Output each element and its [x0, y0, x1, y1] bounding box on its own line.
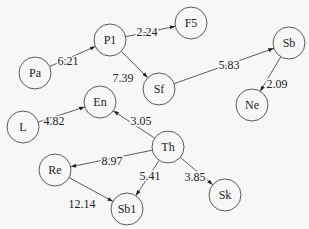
node-p1: P1 — [94, 24, 126, 56]
node-f5: F5 — [175, 7, 207, 39]
node-label: F5 — [185, 16, 198, 30]
node-label: En — [93, 95, 106, 109]
edge-weight-label: 6.21 — [58, 54, 79, 68]
node-ne: Ne — [236, 89, 268, 121]
node-th: Th — [152, 131, 184, 163]
edge-weight-label: 7.39 — [113, 71, 134, 85]
node-l: L — [7, 111, 39, 143]
node-label: Sk — [219, 188, 232, 202]
node-sb: Sb — [273, 27, 305, 59]
edge-weight-label: 8.97 — [102, 154, 123, 168]
node-label: Sb — [283, 36, 296, 50]
node-label: Sf — [154, 82, 165, 96]
edge-weight-label: 5.41 — [140, 169, 161, 183]
node-label: Re — [48, 163, 61, 177]
edge-weight-label: 2.09 — [267, 77, 288, 91]
node-re: Re — [39, 154, 71, 186]
edge-weight-label: 4.82 — [44, 114, 65, 128]
node-label: Ne — [245, 98, 259, 112]
node-label: Sb1 — [118, 202, 137, 216]
node-label: P1 — [104, 33, 117, 47]
node-sb1: Sb1 — [111, 193, 143, 225]
graph-canvas: PaP1F5SfSbNeEnLThReSb1Sk 6.212.247.395.8… — [0, 0, 309, 229]
node-label: L — [19, 120, 26, 134]
edge-weight-label: 12.14 — [69, 197, 96, 211]
edge-weight-label: 3.85 — [185, 170, 206, 184]
node-en: En — [84, 86, 116, 118]
node-label: Pa — [29, 66, 42, 80]
node-sf: Sf — [143, 73, 175, 105]
node-pa: Pa — [19, 57, 51, 89]
edge-weight-label: 3.05 — [131, 114, 152, 128]
edge-weight-label: 2.24 — [137, 25, 158, 39]
node-label: Th — [161, 140, 174, 154]
edge-weight-label: 5.83 — [219, 58, 240, 72]
node-sk: Sk — [209, 179, 241, 211]
